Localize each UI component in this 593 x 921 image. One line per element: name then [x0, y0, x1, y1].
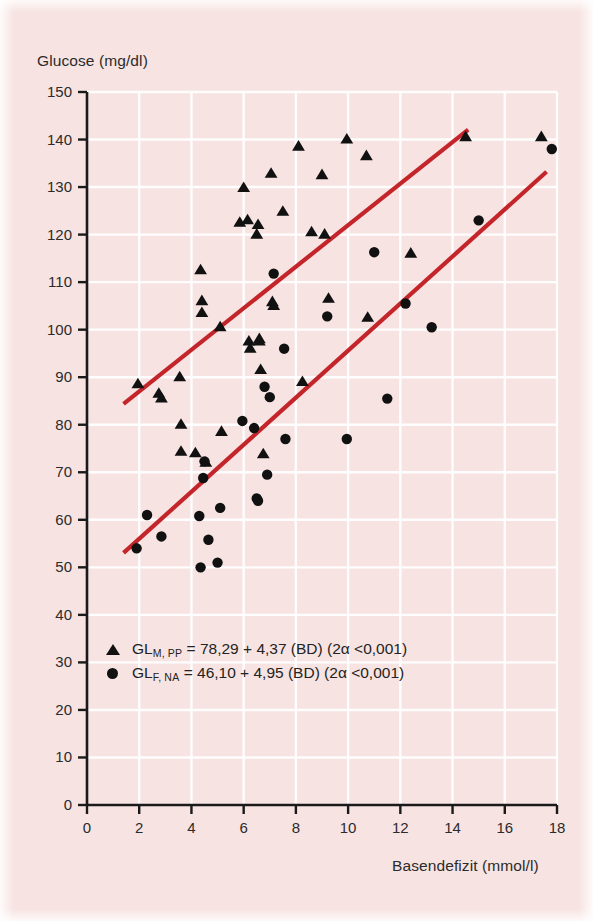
y-tick-label: 90 — [38, 368, 72, 385]
y-tick-label: 20 — [38, 701, 72, 718]
series-circles — [131, 144, 557, 573]
data-point-circle — [131, 543, 141, 553]
data-point-circle — [215, 503, 225, 513]
x-tick-label: 6 — [229, 819, 259, 836]
data-point-circle — [259, 382, 269, 392]
y-tick-label: 70 — [38, 463, 72, 480]
data-point-circle — [142, 510, 152, 520]
data-point-triangle — [173, 371, 186, 382]
data-point-circle — [279, 343, 289, 353]
chart-canvas — [0, 0, 593, 921]
x-tick-label: 16 — [490, 819, 520, 836]
x-tick-label: 12 — [385, 819, 415, 836]
data-point-triangle — [361, 311, 374, 322]
data-point-circle — [195, 562, 205, 572]
y-tick-label: 60 — [38, 511, 72, 528]
y-tick-label: 120 — [38, 226, 72, 243]
y-tick-label: 100 — [38, 321, 72, 338]
legend-equation: GLF, NA = 46,10 + 4,95 (BD) (2α <0,001) — [132, 664, 404, 682]
data-point-circle — [342, 434, 352, 444]
legend-entry-1: GLF, NA = 46,10 + 4,95 (BD) (2α <0,001) — [105, 664, 404, 682]
data-point-circle — [426, 322, 436, 332]
y-tick-label: 40 — [38, 606, 72, 623]
y-tick-label: 130 — [38, 178, 72, 195]
data-point-triangle — [195, 295, 208, 306]
data-point-triangle — [535, 131, 548, 142]
chart-gridlines — [87, 92, 557, 805]
y-tick-label: 140 — [38, 131, 72, 148]
x-tick-label: 14 — [438, 819, 468, 836]
x-tick-label: 8 — [281, 819, 311, 836]
y-axis-title: Glucose (mg/dl) — [37, 52, 148, 70]
data-point-circle — [203, 535, 213, 545]
data-point-circle — [237, 416, 247, 426]
data-point-circle — [199, 456, 209, 466]
data-point-circle — [369, 247, 379, 257]
y-tick-label: 0 — [38, 796, 72, 813]
data-point-triangle — [316, 169, 329, 180]
chart-axes — [78, 92, 557, 814]
data-point-triangle — [292, 140, 305, 151]
data-point-circle — [194, 511, 204, 521]
x-tick-label: 18 — [542, 819, 572, 836]
data-point-triangle — [175, 445, 188, 456]
data-point-triangle — [215, 425, 228, 436]
data-point-triangle — [404, 247, 417, 258]
legend-equation: GLM, PP = 78,29 + 4,37 (BD) (2α <0,001) — [132, 640, 407, 658]
data-point-triangle — [318, 228, 331, 239]
x-tick-label: 2 — [124, 819, 154, 836]
data-point-triangle — [340, 133, 353, 144]
data-point-circle — [322, 311, 332, 321]
y-tick-label: 150 — [38, 83, 72, 100]
data-point-circle — [212, 557, 222, 567]
legend-entry-0: GLM, PP = 78,29 + 4,37 (BD) (2α <0,001) — [105, 640, 407, 658]
data-point-triangle — [265, 167, 278, 178]
data-point-circle — [473, 215, 483, 225]
data-point-triangle — [254, 363, 267, 374]
data-point-circle — [265, 392, 275, 402]
series-triangles — [132, 131, 548, 467]
data-point-circle — [382, 393, 392, 403]
y-tick-label: 30 — [38, 653, 72, 670]
x-tick-label: 10 — [333, 819, 363, 836]
data-point-circle — [268, 268, 278, 278]
y-tick-label: 80 — [38, 416, 72, 433]
y-tick-label: 10 — [38, 748, 72, 765]
data-point-triangle — [175, 418, 188, 429]
regression-lines — [124, 130, 547, 553]
legend-circle-icon — [105, 666, 121, 680]
data-point-triangle — [250, 228, 263, 239]
legend-triangle-icon — [105, 642, 121, 656]
scatter-plot-figure: Glucose (mg/dl) Basendefizit (mmol/l) 01… — [0, 0, 593, 921]
x-axis-title: Basendefizit (mmol/l) — [392, 857, 539, 875]
data-point-triangle — [360, 150, 373, 161]
data-point-circle — [253, 496, 263, 506]
data-point-circle — [280, 434, 290, 444]
data-point-circle — [249, 423, 259, 433]
data-point-triangle — [276, 205, 289, 216]
data-point-triangle — [194, 264, 207, 275]
y-tick-label: 50 — [38, 558, 72, 575]
data-point-triangle — [257, 448, 270, 459]
data-point-triangle — [322, 292, 335, 303]
data-point-circle — [547, 144, 557, 154]
data-point-circle — [400, 298, 410, 308]
data-point-circle — [262, 469, 272, 479]
data-point-triangle — [195, 306, 208, 317]
data-point-circle — [156, 531, 166, 541]
x-tick-label: 0 — [72, 819, 102, 836]
data-point-circle — [198, 473, 208, 483]
data-point-triangle — [305, 226, 318, 237]
regression-line-1 — [124, 172, 547, 553]
x-tick-label: 4 — [176, 819, 206, 836]
y-tick-label: 110 — [38, 273, 72, 290]
data-point-triangle — [132, 378, 145, 389]
